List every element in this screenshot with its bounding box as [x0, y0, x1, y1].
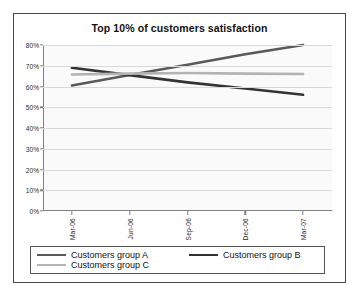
legend-item-customers-group-c[interactable]: Customers group C [35, 260, 187, 270]
gridline [43, 170, 332, 171]
y-axis-tick-mark [40, 86, 44, 87]
legend-item-customers-group-b[interactable]: Customers group B [187, 250, 301, 260]
chart-frame: Top 10% of customers satisfaction 80%70%… [13, 13, 346, 283]
x-axis-tick-label: Dec-06 [242, 218, 249, 240]
plot-area: 80%70%60%50%40%30%20%10%0%Mar-06Jun-06Se… [43, 45, 332, 211]
series-line [72, 73, 303, 74]
y-axis-tick-mark [40, 44, 44, 45]
y-axis-tick-label: 20% [26, 166, 39, 173]
x-axis-tick-mark [129, 211, 130, 215]
legend-swatch-icon [37, 264, 66, 267]
gridline [43, 149, 332, 150]
y-axis-tick-mark [40, 127, 44, 128]
x-axis-tick-mark [71, 211, 72, 215]
y-axis-tick-label: 80% [26, 42, 39, 49]
gridline [43, 66, 332, 67]
y-axis-tick-mark [40, 148, 44, 149]
gridline [43, 190, 332, 191]
y-axis-tick-mark [40, 210, 44, 211]
legend-swatch-icon [189, 254, 218, 257]
x-axis-tick-label: Jun-06 [126, 218, 133, 239]
y-axis-tick-label: 70% [26, 62, 39, 69]
gridline [43, 107, 332, 108]
legend-swatch-icon [37, 254, 66, 257]
legend-label: Customers group A [71, 250, 148, 260]
legend-label: Customers group B [223, 250, 301, 260]
gridline [43, 45, 332, 46]
y-axis-tick-mark [40, 107, 44, 108]
y-axis-tick-label: 0% [29, 208, 39, 215]
legend-label: Customers group C [71, 260, 149, 270]
chart-legend: Customers group A Customers group B Cust… [30, 246, 325, 274]
legend-row: Customers group C [35, 260, 320, 270]
legend-item-customers-group-a[interactable]: Customers group A [35, 250, 187, 260]
x-axis-tick-mark [187, 211, 188, 215]
y-axis-tick-mark [40, 65, 44, 66]
y-axis-tick-mark [40, 190, 44, 191]
y-axis-tick-mark [40, 169, 44, 170]
x-axis-tick-label: Sep-06 [184, 218, 191, 240]
x-axis-tick-label: Mar-07 [300, 218, 307, 240]
legend-row: Customers group A Customers group B [35, 250, 320, 260]
y-axis-tick-label: 30% [26, 145, 39, 152]
x-axis-tick-mark [245, 211, 246, 215]
y-axis-tick-label: 50% [26, 104, 39, 111]
y-axis-tick-label: 10% [26, 187, 39, 194]
x-axis-tick-label: Mar-06 [68, 218, 75, 240]
y-axis-tick-label: 40% [26, 125, 39, 132]
gridline [43, 128, 332, 129]
gridline [43, 87, 332, 88]
chart-title: Top 10% of customers satisfaction [14, 22, 345, 34]
y-axis-tick-label: 60% [26, 83, 39, 90]
x-axis-tick-mark [302, 211, 303, 215]
